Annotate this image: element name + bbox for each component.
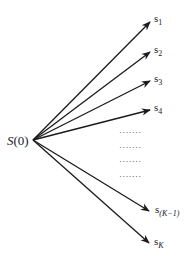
target-label-s1: s1 xyxy=(154,12,162,27)
ellipsis-row-2: ······· xyxy=(119,142,141,152)
source-node-label: S(0) xyxy=(7,133,29,148)
target-label-s3: s3 xyxy=(154,72,162,87)
target-label-sK: sK xyxy=(154,235,164,250)
ellipsis-row-4: ······· xyxy=(119,171,141,181)
ellipsis-row-1: ······· xyxy=(119,127,141,137)
source-label-paren: (0) xyxy=(14,133,29,148)
target-label-s2: s2 xyxy=(154,43,162,58)
fan-out-diagram: S(0) s1 s2 s3 s4 s(K−1) sK ······· ·····… xyxy=(0,0,190,263)
arrow-to-s1 xyxy=(33,22,150,140)
target-label-sK-minus-1: s(K−1) xyxy=(155,203,180,218)
target-label-s4: s4 xyxy=(154,101,162,116)
ellipsis-row-3: ······· xyxy=(119,156,141,166)
